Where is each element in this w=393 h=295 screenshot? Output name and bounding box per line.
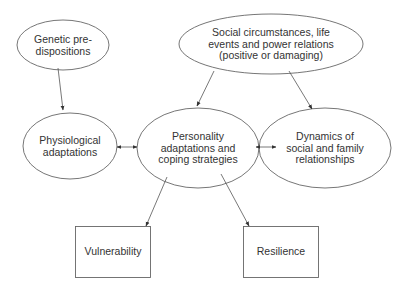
node-dynamics-label: Dynamics of social and family relationsh…: [286, 131, 364, 166]
edge-social-personality: [197, 71, 214, 106]
node-physiological-label: Physiological adaptations: [39, 135, 100, 158]
edge-social-dynamics: [289, 71, 312, 109]
node-genetic-label: Genetic pre- dispositions: [34, 34, 92, 57]
edge-genetic-physiological: [58, 68, 63, 110]
node-resilience-label: Resilience: [257, 246, 305, 258]
node-personality-label: Personality adaptations and coping strat…: [158, 131, 237, 166]
node-social-label: Social circumstances, life events and po…: [208, 27, 334, 62]
node-vulnerability-label: Vulnerability: [85, 246, 142, 258]
edge-personality-vulnerability: [146, 177, 167, 226]
edge-personality-resilience: [221, 174, 249, 226]
